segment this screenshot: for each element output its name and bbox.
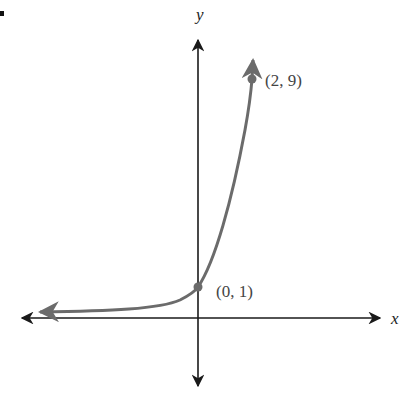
- x-axis-label: x: [390, 309, 399, 328]
- graph-canvas: y x (2, 9) (0, 1): [0, 0, 401, 395]
- exponential-curve: [40, 60, 253, 312]
- y-axis-label: y: [194, 5, 204, 24]
- point-0-1: [194, 283, 203, 292]
- bullet-mark: [0, 11, 4, 16]
- point-2-9-label: (2, 9): [265, 71, 302, 90]
- point-2-9: [248, 75, 257, 84]
- point-0-1-label: (0, 1): [216, 282, 253, 301]
